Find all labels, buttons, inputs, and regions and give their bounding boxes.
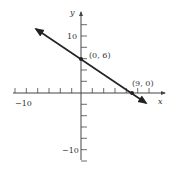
- coordinate-plane: y x −10 10 −10 (0, 6) (9, 0): [0, 0, 177, 169]
- graph-line: [36, 29, 146, 103]
- point-y-intercept: [79, 57, 83, 61]
- y-tick-label-neg10: −10: [62, 146, 79, 155]
- y-tick-label-10: 10: [67, 32, 77, 41]
- point-x-intercept: [130, 91, 134, 95]
- y-axis-label: y: [69, 8, 75, 17]
- point-label-y-intercept: (0, 6): [89, 51, 111, 60]
- x-axis-label: x: [158, 97, 163, 106]
- x-tick-label-neg10: −10: [15, 99, 32, 108]
- point-label-x-intercept: (9, 0): [132, 79, 154, 88]
